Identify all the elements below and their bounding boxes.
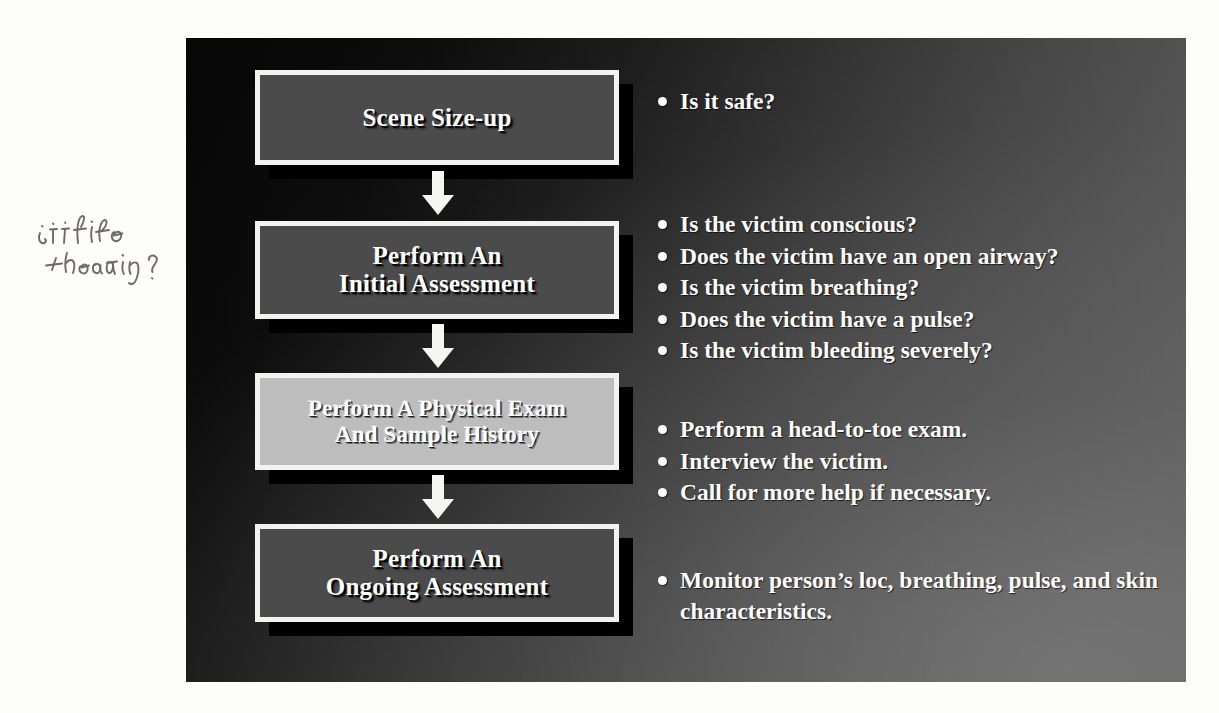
flow-box-label: Scene Size-up bbox=[356, 104, 517, 132]
bullet-text: Does the victim have a pulse? bbox=[680, 304, 1168, 335]
list-item: Is the victim bleeding severely? bbox=[658, 335, 1168, 366]
flow-box-label: Perform A Physical Exam And Sample Histo… bbox=[302, 396, 572, 448]
list-item: Interview the victim. bbox=[658, 446, 1168, 477]
flow-box-ongoing-assessment[interactable]: Perform An Ongoing Assessment bbox=[255, 524, 619, 622]
bullet-dot-icon bbox=[658, 315, 667, 324]
arrow-down-icon bbox=[418, 171, 458, 217]
flow-box-label: Perform An Ongoing Assessment bbox=[320, 545, 554, 601]
list-item: Is it safe? bbox=[658, 86, 1168, 117]
bullet-text: Monitor person’s loc, breathing, pulse, … bbox=[680, 565, 1168, 626]
list-item: Does the victim have a pulse? bbox=[658, 304, 1168, 335]
bullet-text: Is the victim breathing? bbox=[680, 272, 1168, 303]
bullet-dot-icon bbox=[658, 97, 667, 106]
list-item: Monitor person’s loc, breathing, pulse, … bbox=[658, 565, 1168, 626]
arrow-down-icon bbox=[418, 475, 458, 521]
bullet-text: Is it safe? bbox=[680, 86, 1168, 117]
handwritten-annotation bbox=[28, 196, 178, 292]
bullet-text: Call for more help if necessary. bbox=[680, 477, 1168, 508]
bullet-dot-icon bbox=[658, 346, 667, 355]
bullet-group-physical-exam: Perform a head-to-toe exam. Interview th… bbox=[658, 414, 1168, 509]
bullet-dot-icon bbox=[658, 576, 667, 585]
bullet-text: Is the victim bleeding severely? bbox=[680, 335, 1168, 366]
bullet-group-scene-size-up: Is it safe? bbox=[658, 86, 1168, 118]
bullet-dot-icon bbox=[658, 220, 667, 229]
bullet-dot-icon bbox=[658, 252, 667, 261]
bullet-dot-icon bbox=[658, 283, 667, 292]
flow-box-initial-assessment[interactable]: Perform An Initial Assessment bbox=[255, 221, 619, 319]
flow-box-scene-size-up[interactable]: Scene Size-up bbox=[255, 70, 619, 165]
flow-box-physical-exam[interactable]: Perform A Physical Exam And Sample Histo… bbox=[255, 373, 619, 470]
bullet-group-initial-assessment: Is the victim conscious? Does the victim… bbox=[658, 209, 1168, 367]
arrow-down-icon bbox=[418, 324, 458, 370]
bullet-dot-icon bbox=[658, 488, 667, 497]
bullet-dot-icon bbox=[658, 457, 667, 466]
list-item: Does the victim have an open airway? bbox=[658, 241, 1168, 272]
bullet-text: Perform a head-to-toe exam. bbox=[680, 414, 1168, 445]
bullet-text: Does the victim have an open airway? bbox=[680, 241, 1168, 272]
list-item: Call for more help if necessary. bbox=[658, 477, 1168, 508]
list-item: Is the victim breathing? bbox=[658, 272, 1168, 303]
scanned-page: Scene Size-up Perform An Initial Assessm… bbox=[0, 0, 1219, 713]
bullet-text: Is the victim conscious? bbox=[680, 209, 1168, 240]
list-item: Perform a head-to-toe exam. bbox=[658, 414, 1168, 445]
list-item: Is the victim conscious? bbox=[658, 209, 1168, 240]
presentation-slide: Scene Size-up Perform An Initial Assessm… bbox=[186, 38, 1186, 682]
flowchart-column: Scene Size-up Perform An Initial Assessm… bbox=[255, 70, 635, 660]
bullet-dot-icon bbox=[658, 425, 667, 434]
bullet-text: Interview the victim. bbox=[680, 446, 1168, 477]
bullet-group-ongoing-assessment: Monitor person’s loc, breathing, pulse, … bbox=[658, 565, 1168, 627]
flow-box-label: Perform An Initial Assessment bbox=[333, 242, 541, 298]
